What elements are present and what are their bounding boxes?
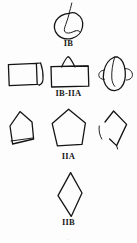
shape-pentagon xyxy=(48,107,92,151)
shape-left-leaning-quadrilateral xyxy=(6,109,46,151)
shape-oval-with-side-lobes xyxy=(96,55,136,93)
figure-plate: IB xyxy=(0,0,137,243)
row-label-ib: IB xyxy=(0,39,137,48)
row-label-ib-iia: IB-IIA xyxy=(0,89,137,98)
shape-leaf-outline-with-stem xyxy=(48,1,92,43)
shape-open-quadrilateral-with-gap xyxy=(96,108,136,152)
row-label-iib: IIB xyxy=(0,218,137,227)
shape-rectangle-with-right-flap xyxy=(6,59,48,91)
row-label-iia: IIA xyxy=(0,152,137,161)
footer-artifact: — xyxy=(0,237,137,241)
shape-rectangle-with-triangular-peak xyxy=(48,55,92,91)
shape-diamond-rhombus xyxy=(52,171,88,219)
